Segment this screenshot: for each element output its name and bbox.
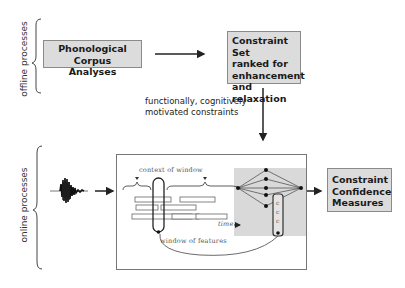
phonological-corpus-box: Phonological Corpus Analyses bbox=[43, 40, 142, 68]
corpus-line-1: Phonological Corpus bbox=[44, 43, 141, 66]
time-label: time bbox=[218, 220, 234, 228]
context-of-window-label: context of window bbox=[139, 166, 203, 174]
speech-waveform-icon bbox=[50, 178, 88, 203]
online-processes-label: online processes bbox=[19, 167, 29, 243]
window-of-features-label: window of features bbox=[160, 237, 227, 245]
corpus-line-2: Analyses bbox=[44, 66, 141, 78]
confidence-line-1: Constraint bbox=[332, 174, 391, 186]
motivation-line-2: motivated constraints bbox=[145, 107, 246, 118]
column-glyph-1: c bbox=[276, 199, 280, 206]
constraint-set-box: Constraint Set ranked for enhancement an… bbox=[227, 31, 301, 84]
offline-processes-label: offline processes bbox=[19, 21, 29, 97]
online-brace bbox=[33, 146, 42, 269]
constraint-set-line-2: ranked for bbox=[232, 58, 300, 70]
confidence-line-2: Confidence bbox=[332, 186, 391, 198]
column-glyph-2: c bbox=[276, 208, 280, 215]
network-region bbox=[234, 168, 306, 236]
offline-brace bbox=[32, 19, 41, 93]
confidence-line-3: Measures bbox=[332, 197, 391, 209]
constraint-confidence-box: Constraint Confidence Measures bbox=[327, 168, 392, 212]
motivation-line-1: functionally, cognitively bbox=[145, 96, 246, 107]
constraint-set-line-1: Constraint Set bbox=[232, 35, 300, 58]
motivation-note: functionally, cognitively motivated cons… bbox=[145, 96, 246, 118]
column-glyph-3: c bbox=[276, 217, 280, 224]
constraint-set-line-3: enhancement bbox=[232, 70, 300, 82]
